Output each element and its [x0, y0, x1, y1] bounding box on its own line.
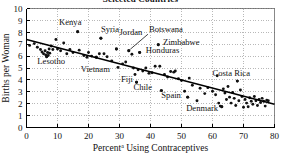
data-point	[183, 90, 186, 93]
data-point	[44, 49, 47, 52]
data-point	[214, 93, 217, 96]
x-tick-label: 10	[53, 131, 63, 141]
data-point	[78, 49, 81, 52]
data-point	[250, 100, 253, 103]
data-point	[264, 105, 267, 108]
data-point	[62, 42, 65, 45]
chart-canvas: KenyaSyriaJordanBotswanaZimbabweHonduras…	[0, 0, 281, 155]
data-point	[158, 65, 161, 68]
data-point	[174, 70, 177, 73]
point-label-botswana: Botswana	[149, 24, 183, 34]
data-point	[51, 48, 54, 51]
data-point	[196, 99, 199, 102]
point-label-kenya: Kenya	[59, 17, 82, 27]
data-point	[48, 48, 51, 51]
data-point-labeled	[186, 96, 189, 99]
data-point	[144, 67, 147, 70]
data-point	[244, 98, 247, 101]
y-tick-label: 7	[18, 39, 23, 49]
data-point	[253, 95, 256, 98]
y-tick-label: 3	[18, 87, 23, 97]
data-point-labeled	[220, 105, 223, 108]
point-label-fiji: Fiji	[121, 74, 134, 84]
data-point	[225, 98, 228, 101]
data-point	[39, 48, 42, 51]
y-tick-label: 4	[18, 75, 23, 85]
data-point-labeled	[115, 48, 118, 51]
data-point	[239, 89, 242, 92]
data-point-labeled	[127, 49, 130, 52]
data-point	[188, 77, 191, 80]
data-point	[169, 70, 172, 73]
data-point	[191, 84, 194, 87]
data-point	[28, 44, 31, 47]
data-point	[154, 65, 157, 68]
data-point	[228, 96, 231, 99]
x-tick-label: 0	[24, 131, 29, 141]
data-point	[106, 55, 109, 58]
data-point	[222, 87, 225, 90]
data-point	[233, 97, 236, 100]
y-tick-label: 5	[18, 63, 23, 73]
chart-title-clipped: Selected Countries	[0, 0, 281, 2]
data-point	[261, 97, 264, 100]
data-point	[33, 42, 36, 45]
data-point	[203, 92, 206, 95]
point-label-denmark: Denmark	[186, 103, 219, 113]
data-point	[227, 85, 230, 88]
data-point	[199, 87, 202, 90]
data-point	[256, 104, 259, 107]
data-point	[98, 52, 101, 55]
data-point	[242, 106, 245, 109]
data-point	[117, 66, 120, 69]
data-point	[55, 38, 58, 41]
data-point	[65, 52, 68, 55]
y-tick-label: 1	[18, 111, 23, 121]
point-label-costa-rica: Costa Rica	[213, 68, 251, 78]
point-label-syria: Syria	[101, 24, 119, 34]
x-tick-label: 20	[84, 131, 94, 141]
data-point	[130, 53, 133, 56]
x-tick-label: 30	[115, 131, 125, 141]
data-point-labeled	[99, 37, 102, 40]
point-label-lesotho: Lesotho	[37, 56, 65, 66]
data-point	[134, 73, 137, 76]
y-tick-label: 9	[18, 16, 23, 26]
y-tick-label: 2	[18, 99, 23, 109]
point-label-chile: Chile	[133, 82, 152, 92]
x-tick-label: 80	[270, 131, 280, 141]
x-axis-title: Percenta Using Contraceptives	[93, 143, 209, 153]
annotation-labels: KenyaSyriaJordanBotswanaZimbabweHonduras…	[37, 17, 250, 113]
data-point	[234, 104, 237, 107]
x-tick-label: 40	[146, 131, 156, 141]
data-point	[36, 46, 39, 49]
data-point	[48, 52, 51, 55]
point-label-spain: Spain	[161, 90, 181, 100]
data-point	[245, 102, 248, 105]
point-label-vietnam: Vietnam	[81, 64, 110, 74]
data-point	[247, 105, 250, 108]
data-point	[87, 51, 90, 54]
point-label-jordan: Jordan	[120, 27, 144, 37]
data-point-labeled	[76, 30, 79, 33]
data-point	[124, 61, 127, 64]
x-tick-label: 50	[177, 131, 187, 141]
y-tick-label: 8	[18, 28, 23, 38]
y-tick-label: 10	[14, 4, 24, 14]
data-point	[211, 90, 214, 93]
data-point	[103, 52, 106, 55]
data-point	[230, 102, 233, 105]
x-tick-label: 60	[208, 131, 218, 141]
point-label-honduras: Honduras	[146, 45, 180, 55]
data-point	[251, 103, 254, 106]
scatter-plot-figure: Selected Countries KenyaSyriaJordanBotsw…	[0, 0, 281, 155]
data-point-labeled	[138, 51, 141, 54]
y-tick-label: 0	[18, 123, 23, 133]
data-point	[237, 99, 240, 102]
y-axis-title: Births per Woman	[1, 33, 11, 102]
x-tick-label: 70	[239, 131, 249, 141]
data-point-labeled	[236, 80, 239, 83]
data-point	[59, 49, 62, 52]
y-tick-label: 6	[18, 51, 23, 61]
